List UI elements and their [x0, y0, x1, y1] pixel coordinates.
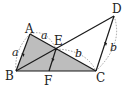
- length-label-cd: b: [110, 41, 117, 54]
- label-e: E: [54, 34, 63, 48]
- point-e-dot: [55, 48, 57, 50]
- geometry-diagram: A B C D E F a a b b: [0, 0, 128, 88]
- label-a: A: [24, 22, 34, 36]
- length-label-ec: b: [75, 47, 82, 60]
- label-c: C: [96, 71, 105, 85]
- label-f: F: [44, 74, 52, 88]
- length-label-ab: a: [12, 46, 19, 59]
- label-b: B: [5, 69, 14, 83]
- length-label-ae: a: [41, 29, 48, 42]
- label-d: D: [112, 2, 122, 16]
